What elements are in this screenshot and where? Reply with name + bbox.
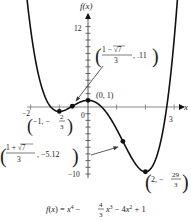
svg-text:, .11: , .11 [133,51,147,60]
function-graph: f(x) x 12 −10 −2 0 3 (0, 1) ( 1 − √7 3 ,… [0,0,191,221]
svg-text:3: 3 [99,211,103,219]
svg-text:4: 4 [99,201,103,209]
data-point [70,104,75,109]
point-label-local-min-right: ( 2, − 29 3 ) [145,171,189,194]
svg-text:29: 29 [172,171,180,179]
svg-text:1 + √7: 1 + √7 [6,143,26,152]
svg-text:x3 − 4x2 + 1: x3 − 4x2 + 1 [105,204,146,215]
annotation-arrow-inflection [91,147,118,155]
tick-label-3: 3 [169,115,173,124]
svg-text:): ) [72,145,79,168]
function-curve [24,0,180,172]
data-point [120,139,125,144]
svg-text:): ) [182,171,189,194]
svg-text:1 − √7: 1 − √7 [102,45,122,54]
svg-text:): ) [152,45,159,68]
function-equation: f(x) = x4 − 4 3 x3 − 4x2 + 1 [46,201,146,219]
svg-text:−1, −: −1, − [33,117,51,126]
svg-text:3: 3 [174,181,178,189]
y-axis [86,14,91,178]
svg-text:): ) [67,116,73,137]
tick-label-12: 12 [74,24,82,33]
point-label-local-min-left: ( −1, − 2 3 ) [27,113,73,137]
point-label-inflection-left: ( 1 − √7 3 , .11 ) [95,45,159,68]
svg-text:(: ( [95,45,102,68]
svg-text:3: 3 [60,123,64,131]
tick-label-0: 0 [81,111,85,120]
svg-text:f(x) = x4 −: f(x) = x4 − [46,204,81,215]
tick-label-neg10: −10 [68,170,80,179]
svg-text:3: 3 [17,155,21,164]
svg-text:2, −: 2, − [151,175,164,184]
svg-text:, −5.12: , −5.12 [37,150,60,159]
svg-text:3: 3 [114,56,118,65]
y-axis-label: f(x) [80,1,93,11]
svg-text:2: 2 [60,113,64,121]
point-label-inflection-right: ( 1 + √7 3 , −5.12 ) [0,143,79,168]
data-point [86,98,91,103]
point-label-0-1: (0, 1) [96,91,114,100]
x-axis-label: x [183,102,188,112]
